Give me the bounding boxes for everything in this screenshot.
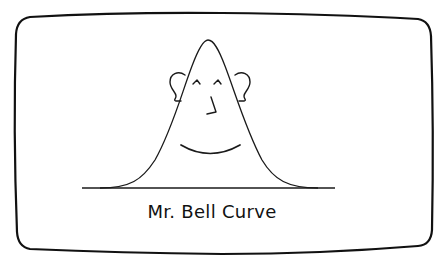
left-eye-icon: [193, 80, 200, 84]
right-ear-icon: [235, 73, 250, 101]
drawing: [0, 0, 448, 263]
cartoon-figure: Mr. Bell Curve: [0, 0, 448, 263]
left-ear-icon: [170, 73, 185, 101]
figure-caption: Mr. Bell Curve: [0, 201, 424, 222]
smile-icon: [181, 145, 240, 154]
nose-icon: [207, 97, 216, 114]
right-eye-icon: [214, 80, 221, 84]
